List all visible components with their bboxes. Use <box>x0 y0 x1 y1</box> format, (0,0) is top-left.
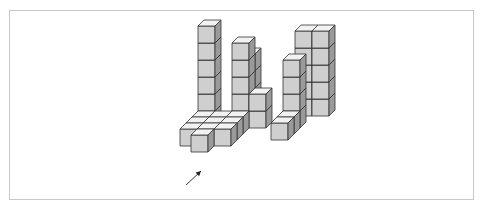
cube-front-face <box>198 94 215 111</box>
cube-front-face <box>249 111 266 128</box>
cube-front-face <box>198 43 215 60</box>
cube-front-face <box>198 60 215 77</box>
cube <box>312 25 335 48</box>
cube-front-face <box>295 31 312 48</box>
cube-front-face <box>198 26 215 43</box>
cube <box>249 88 272 111</box>
cube-front-face <box>191 135 208 152</box>
cube-front-face <box>312 99 329 116</box>
cube-front-face <box>283 60 300 77</box>
cube-front-face <box>312 31 329 48</box>
cube <box>191 129 214 152</box>
cube-front-face <box>312 48 329 65</box>
cube-front-face <box>232 43 249 60</box>
cube <box>198 20 221 43</box>
cube-front-face <box>312 65 329 82</box>
cube <box>232 37 255 60</box>
cube-structure-figure <box>0 0 482 211</box>
cube <box>283 54 306 77</box>
cube-front-face <box>232 77 249 94</box>
cube-front-face <box>283 77 300 94</box>
cube-front-face <box>283 94 300 111</box>
cube-front-face <box>232 60 249 77</box>
cube-front-face <box>198 77 215 94</box>
cube-front-face <box>312 82 329 99</box>
cube-front-face <box>271 123 288 140</box>
cube <box>214 123 237 146</box>
cube-front-face <box>232 94 249 111</box>
cube-front-face <box>249 94 266 111</box>
cube-front-face <box>214 129 231 146</box>
cube <box>271 117 294 140</box>
